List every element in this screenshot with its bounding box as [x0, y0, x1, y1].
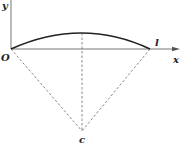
x-axis-arrow-icon [172, 47, 180, 51]
radius-end-to-center [82, 49, 150, 131]
y-axis-label: y [1, 0, 9, 11]
arc-curve [11, 33, 150, 49]
endpoint-label: l [155, 37, 159, 48]
radius-origin-to-center [11, 49, 82, 131]
x-axis-label: x [172, 54, 180, 65]
center-label: c [79, 134, 85, 145]
arc-diagram: y O l x c [0, 0, 185, 149]
origin-label: O [1, 52, 10, 63]
